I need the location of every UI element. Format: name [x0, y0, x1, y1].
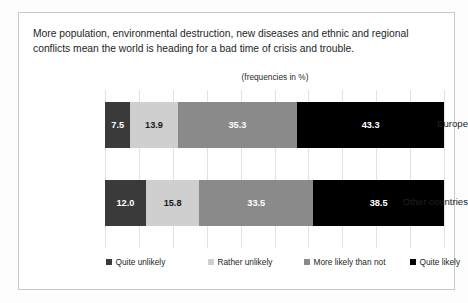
legend-swatch-icon	[304, 259, 310, 265]
legend-swatch-icon	[410, 259, 416, 265]
chart-title: More population, environmental destructi…	[33, 27, 441, 56]
legend-swatch-icon	[106, 259, 112, 265]
bar-segment: 33.5	[199, 180, 313, 226]
legend-label: Rather unlikely	[218, 257, 273, 267]
plot-area: 7.5 13.9 35.3 43.3 12.0 15.8 33.5 38.5	[105, 90, 444, 248]
bar-segment: 13.9	[130, 102, 177, 148]
chart-subtitle: (frequencies in %)	[105, 72, 445, 82]
bar-segment: 15.8	[146, 180, 200, 226]
category-label-europe: Europe	[370, 118, 468, 129]
legend-label: More likely than not	[314, 257, 386, 267]
bar-segment: 12.0	[105, 180, 146, 226]
legend-item-quite-unlikely: Quite unlikely	[106, 257, 165, 267]
legend-item-rather-unlikely: Rather unlikely	[208, 257, 272, 267]
chart-figure: More population, environmental destructi…	[0, 0, 468, 303]
gridline	[444, 90, 445, 248]
bar-segment: 7.5	[105, 102, 130, 148]
legend-label: Quite likely	[420, 257, 461, 267]
legend-label: Quite unlikely	[116, 257, 166, 267]
legend-item-quite-likely: Quite likely	[410, 257, 460, 267]
bar-segment: 35.3	[178, 102, 298, 148]
legend-swatch-icon	[208, 259, 214, 265]
chart-legend: Quite unlikely Rather unlikely More like…	[28, 257, 446, 271]
category-label-other-countries: Other countries	[370, 196, 468, 207]
legend-item-more-likely-than-not: More likely than not	[304, 257, 385, 267]
